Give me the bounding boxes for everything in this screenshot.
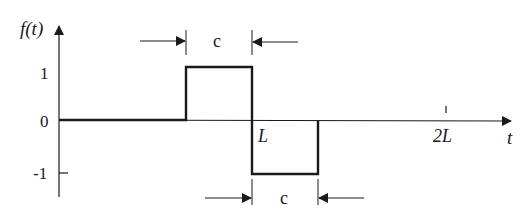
x-mark-2L: 2L bbox=[433, 126, 452, 146]
pulse-diagram: f(t) 1 0 -1 L 2L t c c bbox=[0, 0, 531, 211]
y-tick-label-one: 1 bbox=[40, 64, 49, 83]
width-label-bottom: c bbox=[280, 188, 288, 208]
y-axis-label: f(t) bbox=[20, 18, 43, 40]
x-axis-label: t bbox=[507, 127, 513, 148]
y-tick-label-zero: 0 bbox=[40, 112, 49, 131]
width-label-top: c bbox=[213, 31, 221, 51]
y-tick-label-minus-one: -1 bbox=[33, 164, 47, 183]
x-mark-L: L bbox=[257, 126, 268, 146]
